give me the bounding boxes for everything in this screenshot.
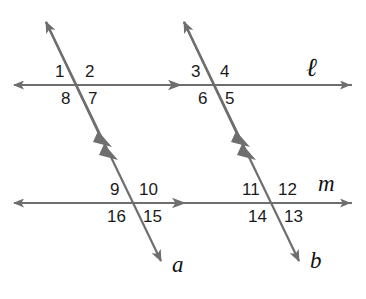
angle-label-5: 5 xyxy=(225,90,234,107)
angle-label-10: 10 xyxy=(139,181,158,198)
transversal-a-parallel-tick-2-icon xyxy=(99,144,118,160)
transversal-b-group xyxy=(184,22,299,261)
angle-label-15: 15 xyxy=(143,208,162,225)
transversal-a-parallel-tick-1-icon xyxy=(93,131,112,147)
line-label-ell: ℓ xyxy=(306,55,317,81)
angle-label-14: 14 xyxy=(248,208,267,225)
transversal-b-parallel-tick-1-icon xyxy=(231,131,250,147)
angle-label-2: 2 xyxy=(85,63,94,80)
angle-label-11: 11 xyxy=(242,181,260,198)
angle-label-12: 12 xyxy=(278,181,297,198)
angle-label-9: 9 xyxy=(110,181,119,198)
angle-label-3: 3 xyxy=(191,63,200,80)
angle-label-7: 7 xyxy=(88,90,97,107)
line-label-m: m xyxy=(318,172,335,195)
line-label-b: b xyxy=(310,249,322,272)
transversal-b-parallel-tick-2-icon xyxy=(237,144,256,160)
angle-label-13: 13 xyxy=(284,208,303,225)
angle-label-4: 4 xyxy=(220,63,229,80)
angle-label-16: 16 xyxy=(107,208,126,225)
angle-label-1: 1 xyxy=(55,63,64,80)
angle-label-8: 8 xyxy=(61,90,70,107)
geometry-diagram: 1 2 3 4 5 6 7 8 9 10 11 12 13 14 15 16 ℓ… xyxy=(0,0,366,299)
angle-label-6: 6 xyxy=(198,90,207,107)
line-label-a: a xyxy=(172,253,184,276)
